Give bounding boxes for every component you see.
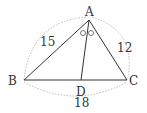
side-ab [24, 20, 89, 80]
vertex-label-c: C [129, 74, 138, 88]
length-label-ab: 15 [40, 35, 55, 49]
angle-mark-left [81, 31, 86, 36]
vertex-label-b: B [8, 74, 17, 88]
length-label-ac: 12 [117, 41, 132, 55]
bisector-ad [81, 20, 89, 80]
length-label-bc: 18 [74, 96, 89, 110]
angle-mark-right [89, 31, 94, 36]
triangle-diagram: A B C D 15 12 18 [0, 0, 147, 113]
vertex-label-a: A [84, 5, 94, 19]
